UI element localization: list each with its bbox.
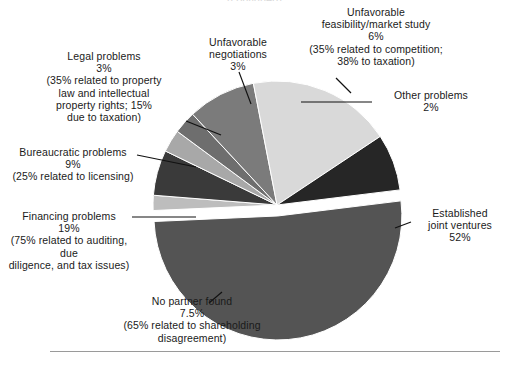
callout-unfavorable-feasibility: Unfavorable feasibility/market study 6% … [286, 6, 466, 67]
callout-bureaucratic-problems: Bureaucratic problems 9% (25% related to… [8, 146, 138, 183]
callout-unfavorable-negotiations: Unfavorable negotiations 3% [186, 36, 290, 73]
leader-line-unfavorable-feasibility [336, 78, 351, 93]
callout-legal-problems: Legal problems 3% (35% related to proper… [20, 50, 188, 123]
callout-financing-problems: Financing problems 19% (75% related to a… [4, 210, 134, 271]
callout-other-problems: Other problems 2% [372, 89, 490, 113]
callout-established-joint-ventures: Established joint ventures 52% [414, 207, 506, 244]
callout-no-partner-found: No partner found 7.5% (65% related to sh… [96, 295, 288, 344]
pie-chart-figure: (continued) Legal problems 3% (35% relat… [0, 0, 509, 367]
bottom-divider [50, 351, 500, 352]
